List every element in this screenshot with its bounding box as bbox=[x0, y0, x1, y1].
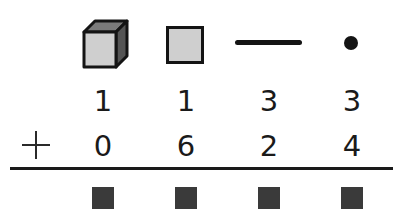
addend1-tens: 3 bbox=[249, 86, 289, 116]
addend1-thousands: 1 bbox=[83, 86, 123, 116]
answer-box-ones[interactable] bbox=[341, 187, 363, 209]
addend2-thousands: 0 bbox=[83, 131, 123, 161]
addend2-hundreds: 6 bbox=[166, 131, 206, 161]
ones-unit-icon bbox=[344, 36, 358, 50]
hundreds-flat-icon bbox=[166, 26, 204, 64]
addend1-hundreds: 1 bbox=[166, 86, 206, 116]
answer-box-hundreds[interactable] bbox=[175, 187, 197, 209]
addend2-ones: 4 bbox=[332, 131, 372, 161]
answer-box-thousands[interactable] bbox=[92, 187, 114, 209]
addend1-ones: 3 bbox=[332, 86, 372, 116]
plus-sign bbox=[22, 131, 50, 159]
thousands-cube-icon bbox=[80, 18, 132, 70]
answer-box-tens[interactable] bbox=[258, 187, 280, 209]
sum-rule-divider bbox=[10, 167, 393, 170]
tens-rod-icon bbox=[235, 40, 302, 45]
addend2-tens: 2 bbox=[249, 131, 289, 161]
